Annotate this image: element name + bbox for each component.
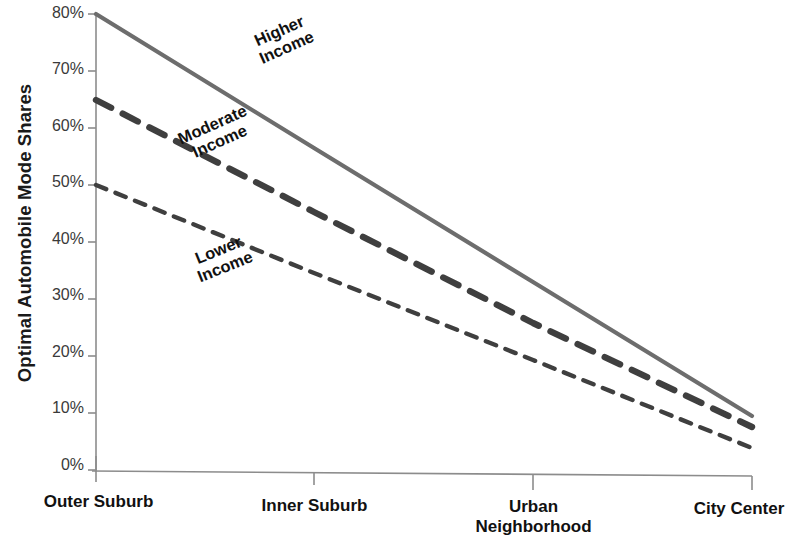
series-line-higher-income bbox=[96, 14, 752, 416]
x-axis-line bbox=[92, 471, 752, 476]
series-line-lower-income bbox=[96, 185, 752, 448]
x-tick-label-outer-suburb: Outer Suburb bbox=[16, 492, 181, 512]
x-tick-label-urban-neighborhood: Urban Neighborhood bbox=[451, 497, 616, 537]
chart-svg bbox=[0, 0, 806, 540]
x-tick-label-urban-neighborhood-line2: Neighborhood bbox=[451, 517, 616, 537]
x-tick-label-inner-suburb: Inner Suburb bbox=[232, 496, 397, 516]
x-tick-label-inner-suburb-line1: Inner Suburb bbox=[232, 496, 397, 516]
x-tick-label-city-center: City Center bbox=[674, 499, 804, 519]
x-tick-label-city-center-line1: City Center bbox=[674, 499, 804, 519]
x-tick-label-outer-suburb-line1: Outer Suburb bbox=[16, 492, 181, 512]
chart-container: Optimal Automobile Mode Shares 80% 70% 6… bbox=[0, 0, 806, 540]
series-group bbox=[96, 14, 752, 448]
x-tick-label-urban-neighborhood-line1: Urban bbox=[451, 497, 616, 517]
